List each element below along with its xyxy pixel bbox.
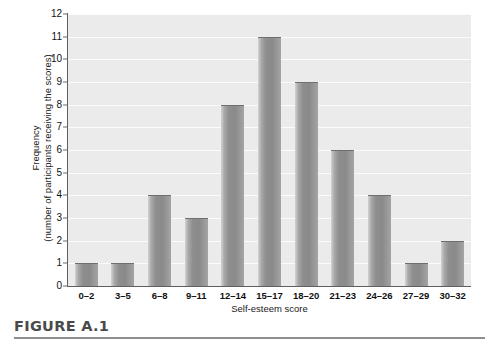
figure-caption: FIGURE A.1 [14,318,109,334]
x-axis-tick-label: 30–32 [428,290,478,302]
caption-divider [14,337,485,339]
y-axis-tick-label: 3 [38,213,62,223]
x-axis-title: Self-esteem score [68,303,471,314]
y-axis-tick-label: 12 [38,9,62,19]
bar [405,263,428,286]
y-axis-tick-label: 2 [38,236,62,246]
x-axis-tick-labels: 0–23–56–89–1112–1415–1718–2021–2324–2627… [68,290,471,304]
y-axis-tick-labels: 0123456789101112 [38,14,62,286]
bar [185,218,208,286]
y-axis-tick-label: 7 [38,122,62,132]
figure-container: Frequency (number of participants receiv… [0,0,499,343]
bar [111,263,134,286]
bar [368,195,391,286]
bar [258,37,281,286]
bar [75,263,98,286]
y-axis-tick-label: 10 [38,54,62,64]
bar [331,150,354,286]
bar [221,105,244,286]
y-axis-tick-label: 4 [38,190,62,200]
bar [295,82,318,286]
y-axis-line [67,13,68,287]
y-axis-tick-label: 1 [38,258,62,268]
y-axis-tick-label: 6 [38,145,62,155]
bar [441,241,464,286]
x-axis-line [67,286,471,287]
y-axis-tick-label: 5 [38,168,62,178]
bar [148,195,171,286]
bar-chart: Frequency (number of participants receiv… [0,0,499,300]
y-axis-title: Frequency (number of participants receiv… [0,0,34,290]
bar-series [68,14,471,286]
y-axis-tick-label: 11 [38,32,62,42]
plot-area [68,14,471,286]
y-axis-tick-label: 9 [38,77,62,87]
y-axis-tick-label: 0 [38,281,62,291]
y-axis-tick-label: 8 [38,100,62,110]
